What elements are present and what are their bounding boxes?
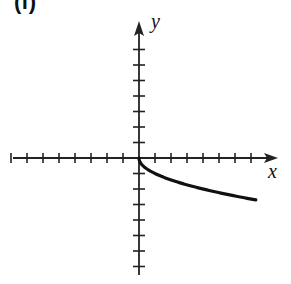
x-axis-label: x bbox=[268, 160, 277, 183]
function-curve bbox=[139, 158, 256, 200]
y-axis-label: y bbox=[151, 10, 160, 33]
axes bbox=[11, 21, 278, 275]
plot-area bbox=[0, 0, 291, 284]
